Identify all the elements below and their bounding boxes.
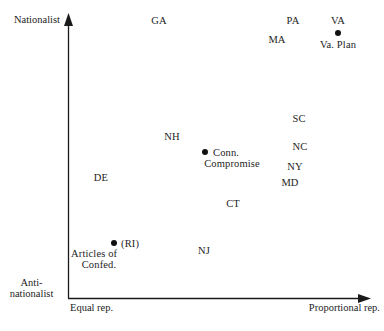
scatter-plot-figure: Nationalist Anti- nationalist Equal rep.… — [0, 0, 384, 331]
marker-label-conn-compromise-line2: Compromise — [197, 158, 267, 170]
marker-conn-compromise — [202, 149, 208, 155]
y-axis-bottom-label-line2: nationalist — [0, 288, 63, 300]
point-label-ct: CT — [226, 198, 240, 210]
marker-label-va-plan: Va. Plan — [320, 39, 356, 51]
point-label-va: VA — [331, 15, 345, 27]
marker-label-articles-line2: Confed. — [71, 259, 127, 271]
marker-label-articles-line1: Articles of — [71, 248, 117, 260]
x-axis-left-label: Equal rep. — [70, 302, 113, 314]
point-label-ma: MA — [268, 34, 285, 46]
marker-va-plan — [335, 30, 341, 36]
point-label-ga: GA — [151, 15, 166, 27]
point-label-de: DE — [94, 172, 108, 184]
marker-articles-of-confederation — [111, 240, 117, 246]
marker-label-ri: (RI) — [121, 238, 139, 250]
point-label-pa: PA — [287, 15, 300, 27]
marker-label-conn-compromise-line1: Conn. — [213, 147, 239, 159]
point-label-nj: NJ — [198, 245, 210, 257]
point-label-nh: NH — [164, 131, 179, 143]
point-label-sc: SC — [292, 113, 305, 125]
point-label-nc: NC — [293, 141, 308, 153]
x-axis-right-label: Proportional rep. — [309, 302, 380, 314]
y-axis-arrowhead — [64, 13, 73, 26]
y-axis-top-label: Nationalist — [2, 14, 60, 26]
point-label-ny: NY — [287, 161, 302, 173]
point-label-md: MD — [281, 177, 298, 189]
